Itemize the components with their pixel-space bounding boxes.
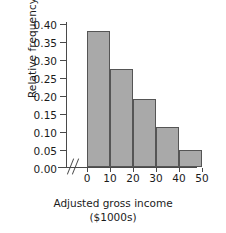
bar-bin-10-20 [110,69,133,167]
x-axis-title: Adjusted gross income ($1000s) [0,196,226,224]
bar-bin-40-50 [179,150,202,167]
x-tick-label: 50 [190,173,214,184]
x-axis-title-main: Adjusted gross income [53,197,172,209]
x-tick-label: 30 [144,173,168,184]
bar-bin-30-40 [156,127,179,167]
x-tick-label: 0 [75,173,99,184]
x-tick-label: 20 [121,173,145,184]
x-tick-label: 10 [98,173,122,184]
histogram-figure: Relative frequency 0.40 0.35 0.30 0.25 0… [0,0,226,233]
x-tick-label: 40 [167,173,191,184]
bar-bin-20-30 [133,99,156,167]
x-axis-title-units: ($1000s) [0,210,226,224]
bar-bin-0-10 [87,31,110,167]
